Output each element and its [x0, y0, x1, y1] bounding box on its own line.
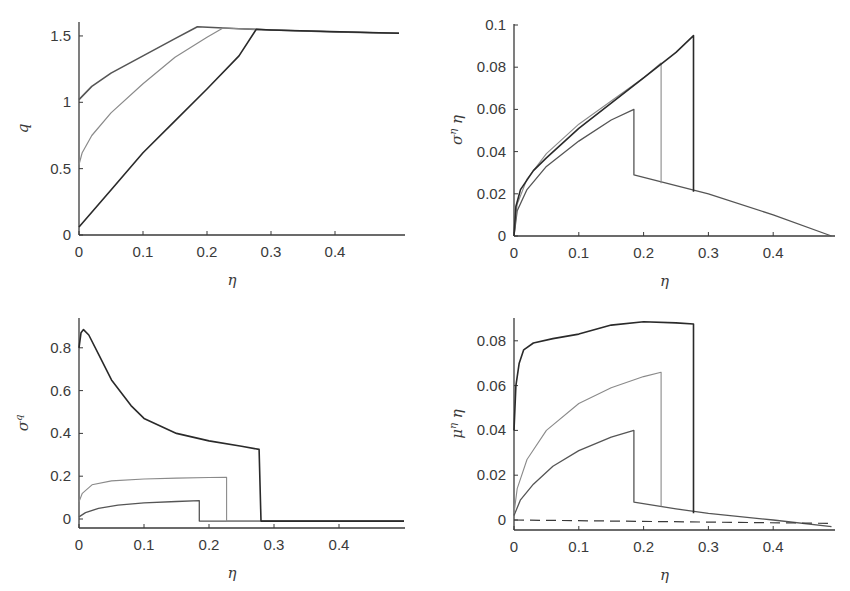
series-curve-3 [79, 330, 404, 521]
y-tick-label: 0.5 [50, 160, 71, 177]
x-tick-label: 0.3 [698, 244, 719, 261]
series-curve-2 [514, 63, 661, 236]
y-tick-label: 0 [498, 227, 506, 244]
series-curve-2 [79, 28, 399, 165]
panel-sigma-eta-eta: 00.10.20.30.400.020.040.060.080.1ηση η [447, 16, 835, 290]
x-tick-label: 0 [75, 536, 83, 553]
y-tick-label: 0.06 [477, 377, 506, 394]
x-tick-label: 0.3 [261, 243, 282, 260]
y-tick-label: 0 [63, 226, 71, 243]
series-curve-2 [514, 372, 661, 513]
x-tick-label: 0.1 [134, 536, 155, 553]
x-axis-label: η [228, 564, 237, 582]
series-curve-3 [514, 36, 694, 236]
y-tick-label: 0.02 [477, 185, 506, 202]
y-tick-label: 0.02 [477, 466, 506, 483]
y-tick-label: 0.08 [477, 332, 506, 349]
y-axis-label: μη η [447, 409, 466, 439]
x-axis-label: η [660, 566, 669, 584]
y-tick-label: 0.08 [477, 58, 506, 75]
x-tick-label: 0.4 [329, 536, 350, 553]
x-tick-label: 0 [75, 243, 83, 260]
series-curve-3 [79, 29, 399, 227]
y-axis-label: σq [13, 415, 32, 432]
series-curve-2 [79, 477, 404, 521]
x-axis-label: η [228, 271, 237, 289]
y-tick-label: 0.2 [50, 467, 71, 484]
x-tick-label: 0.4 [763, 538, 784, 555]
panel-mu-eta-eta: 00.10.20.30.400.020.040.060.08ημη η [447, 318, 835, 584]
x-tick-label: 0 [510, 244, 518, 261]
x-axis-label: η [660, 272, 669, 290]
y-tick-label: 1 [63, 93, 71, 110]
y-tick-label: 0 [498, 511, 506, 528]
series-curve-3 [514, 322, 694, 514]
series-curve-1 [514, 430, 832, 526]
x-tick-label: 0.2 [633, 244, 654, 261]
series-curve-1 [79, 27, 399, 100]
x-tick-label: 0.4 [763, 244, 784, 261]
y-tick-label: 0.4 [50, 424, 71, 441]
y-tick-label: 0.1 [485, 16, 506, 33]
series-curve-1 [514, 109, 832, 236]
y-tick-label: 0.6 [50, 382, 71, 399]
x-tick-label: 0.4 [325, 243, 346, 260]
x-tick-label: 0.3 [698, 538, 719, 555]
x-tick-label: 0.1 [568, 244, 589, 261]
panel-sigma-q: 00.10.20.30.400.20.40.60.8ησq [13, 318, 405, 582]
y-tick-label: 0.8 [50, 339, 71, 356]
y-axis-label: ση η [447, 115, 466, 145]
series-curve-1 [79, 501, 404, 521]
x-tick-label: 0.2 [199, 536, 220, 553]
y-axis-label: q [14, 124, 32, 134]
y-tick-label: 0.04 [477, 143, 506, 160]
y-tick-label: 0.06 [477, 100, 506, 117]
x-tick-label: 0.3 [264, 536, 285, 553]
y-tick-label: 1.5 [50, 27, 71, 44]
panel-q: 00.10.20.30.400.511.5ηq [14, 22, 405, 289]
figure: 00.10.20.30.400.511.5ηq 00.10.20.30.400.… [0, 0, 850, 591]
x-tick-label: 0 [510, 538, 518, 555]
x-tick-label: 0.1 [133, 243, 154, 260]
x-tick-label: 0.2 [633, 538, 654, 555]
y-tick-label: 0 [63, 510, 71, 527]
x-tick-label: 0.1 [568, 538, 589, 555]
y-tick-label: 0.04 [477, 421, 506, 438]
x-tick-label: 0.2 [197, 243, 218, 260]
